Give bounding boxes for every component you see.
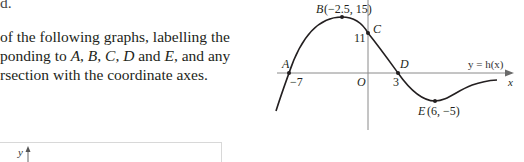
- label-C-value: 11: [354, 31, 366, 45]
- label-E-graph: E: [417, 104, 426, 118]
- point-E: [433, 99, 437, 103]
- label-B-coords: (−2.5, 15): [324, 2, 372, 16]
- label-origin: O: [357, 75, 366, 89]
- next-graph-box: [0, 142, 222, 162]
- point-C: [366, 31, 370, 35]
- label-D-graph: D: [399, 57, 409, 71]
- label-x-neg7: −7: [290, 75, 303, 89]
- curve-h: [276, 17, 497, 111]
- label-A-graph: A: [281, 57, 290, 71]
- next-graph-y-label: y: [18, 146, 23, 158]
- curve-label: y = h(x): [468, 58, 504, 71]
- label-C-graph: C: [373, 22, 382, 36]
- label-E-coords: (6, −5): [427, 104, 460, 118]
- label-x-3: 3: [393, 75, 399, 89]
- function-graph: B (−2.5, 15) C 11 A −7 O D 3 E (6, −5) y…: [0, 0, 524, 162]
- label-B-graph: B: [316, 2, 324, 16]
- label-x-axis: x: [507, 76, 513, 88]
